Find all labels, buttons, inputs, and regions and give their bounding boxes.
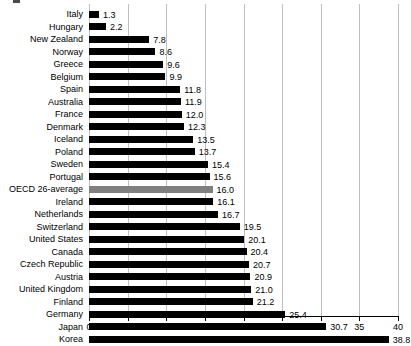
bar-row: Belgium9.9 bbox=[0, 71, 411, 84]
bar bbox=[89, 73, 165, 80]
bar-row: Netherlands16.7 bbox=[0, 208, 411, 221]
bar-row: Austria20.9 bbox=[0, 271, 411, 284]
bar-row: Spain11.8 bbox=[0, 83, 411, 96]
category-label: Korea bbox=[59, 333, 83, 345]
value-label: 20.1 bbox=[248, 234, 266, 246]
x-axis-tick-label: 35 bbox=[344, 322, 374, 332]
bar bbox=[89, 23, 106, 30]
value-label: 13.7 bbox=[199, 146, 217, 158]
bar bbox=[89, 286, 251, 293]
x-axis-tick-15 bbox=[205, 317, 206, 321]
bar bbox=[89, 36, 149, 43]
bar bbox=[89, 111, 182, 118]
value-label: 25.4 bbox=[289, 309, 307, 321]
x-axis-tick-label: 40 bbox=[383, 322, 411, 332]
x-axis-tick-30 bbox=[321, 317, 322, 321]
value-label: 12.0 bbox=[186, 109, 204, 121]
bar-row: France12.0 bbox=[0, 108, 411, 121]
value-label: 21.0 bbox=[255, 284, 273, 296]
category-label: Canada bbox=[51, 246, 83, 258]
bar bbox=[89, 236, 244, 243]
bar bbox=[89, 336, 389, 343]
bar-row: Canada20.4 bbox=[0, 246, 411, 259]
bar bbox=[89, 273, 250, 280]
value-label: 20.9 bbox=[254, 271, 272, 283]
bar bbox=[89, 98, 181, 105]
category-label: OECD 26-average bbox=[9, 183, 83, 195]
bar-row: Ireland16.1 bbox=[0, 196, 411, 209]
value-label: 16.0 bbox=[217, 184, 235, 196]
x-axis-tick-25 bbox=[282, 317, 283, 321]
bar-row: United Kingdom21.0 bbox=[0, 283, 411, 296]
bar bbox=[89, 298, 253, 305]
value-label: 16.1 bbox=[217, 196, 235, 208]
x-axis-tick-label: 10 bbox=[151, 322, 181, 332]
category-label: Finland bbox=[53, 296, 83, 308]
category-label: Spain bbox=[60, 83, 83, 95]
category-label: Italy bbox=[66, 8, 83, 20]
value-label: 7.8 bbox=[153, 34, 166, 46]
x-axis-tick-label: 25 bbox=[267, 322, 297, 332]
category-label: France bbox=[55, 108, 83, 120]
value-label: 20.7 bbox=[253, 259, 271, 271]
bar bbox=[89, 136, 193, 143]
bar-row: Norway8.6 bbox=[0, 46, 411, 59]
category-label: Norway bbox=[52, 46, 83, 58]
value-label: 15.6 bbox=[214, 171, 232, 183]
bar-row: OECD 26-average16.0 bbox=[0, 183, 411, 196]
bar bbox=[89, 48, 155, 55]
bar-row: Greece9.6 bbox=[0, 58, 411, 71]
category-label: Czech Republic bbox=[20, 258, 83, 270]
x-axis-tick-label: 30 bbox=[306, 322, 336, 332]
bar-row: Finland21.2 bbox=[0, 296, 411, 309]
bar-row: United States20.1 bbox=[0, 233, 411, 246]
bar bbox=[89, 86, 180, 93]
bar-row: Poland13.7 bbox=[0, 146, 411, 159]
bar-row: Australia11.9 bbox=[0, 96, 411, 109]
x-axis-tick-label: 15 bbox=[190, 322, 220, 332]
bar bbox=[89, 248, 247, 255]
category-label: New Zealand bbox=[30, 33, 83, 45]
bar bbox=[89, 161, 208, 168]
value-label: 9.6 bbox=[167, 59, 180, 71]
category-label: Australia bbox=[48, 96, 83, 108]
category-label: Sweden bbox=[50, 158, 83, 170]
bar bbox=[89, 211, 218, 218]
category-label: United Kingdom bbox=[19, 283, 83, 295]
bar-row: Denmark12.3 bbox=[0, 121, 411, 134]
bar bbox=[89, 223, 240, 230]
x-axis-tick-5 bbox=[128, 317, 129, 321]
bar-row: Switzerland19.5 bbox=[0, 221, 411, 234]
x-axis-tick-label: 20 bbox=[229, 322, 259, 332]
x-axis-tick-10 bbox=[166, 317, 167, 321]
bar-row: Iceland13.5 bbox=[0, 133, 411, 146]
bar bbox=[89, 186, 213, 193]
x-axis-tick-label: 0 bbox=[74, 322, 104, 332]
bar bbox=[89, 61, 163, 68]
value-label: 19.5 bbox=[244, 221, 262, 233]
value-label: 15.4 bbox=[212, 159, 230, 171]
value-label: 1.3 bbox=[103, 9, 116, 21]
bar bbox=[89, 173, 210, 180]
value-label: 11.9 bbox=[185, 96, 202, 108]
bar bbox=[89, 198, 213, 205]
category-label: Denmark bbox=[46, 121, 83, 133]
category-label: Iceland bbox=[54, 133, 83, 145]
x-axis-tick-40 bbox=[398, 317, 399, 321]
value-label: 13.5 bbox=[197, 134, 215, 146]
category-label: United States bbox=[29, 233, 83, 245]
bar-row: Hungary2.2 bbox=[0, 21, 411, 34]
category-label: Hungary bbox=[49, 21, 83, 33]
value-label: 38.8 bbox=[393, 334, 411, 346]
category-label: Austria bbox=[55, 271, 83, 283]
category-label: Germany bbox=[46, 308, 83, 320]
category-label: Switzerland bbox=[36, 221, 83, 233]
category-label: Portugal bbox=[49, 171, 83, 183]
crop-artifact bbox=[13, 0, 20, 3]
value-label: 11.8 bbox=[184, 84, 201, 96]
category-label: Greece bbox=[53, 58, 83, 70]
category-label: Poland bbox=[55, 146, 83, 158]
category-label: Ireland bbox=[55, 196, 83, 208]
value-label: 2.2 bbox=[110, 21, 123, 33]
